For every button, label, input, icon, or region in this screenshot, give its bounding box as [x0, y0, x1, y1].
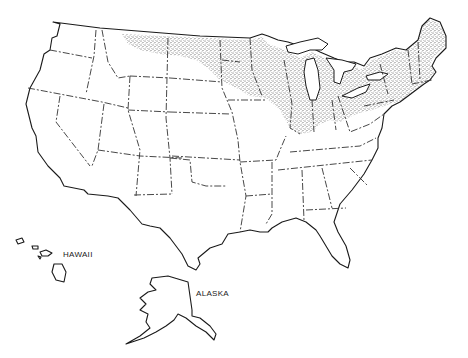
shaded-region [122, 20, 446, 134]
hawaii-islands [16, 238, 66, 282]
figure-caption [70, 349, 390, 355]
lake-superior [286, 38, 328, 54]
alaska-outline [126, 276, 216, 344]
hawaii-label: HAWAII [63, 250, 93, 259]
alaska-label: ALASKA [196, 289, 229, 298]
us-map [0, 0, 468, 358]
